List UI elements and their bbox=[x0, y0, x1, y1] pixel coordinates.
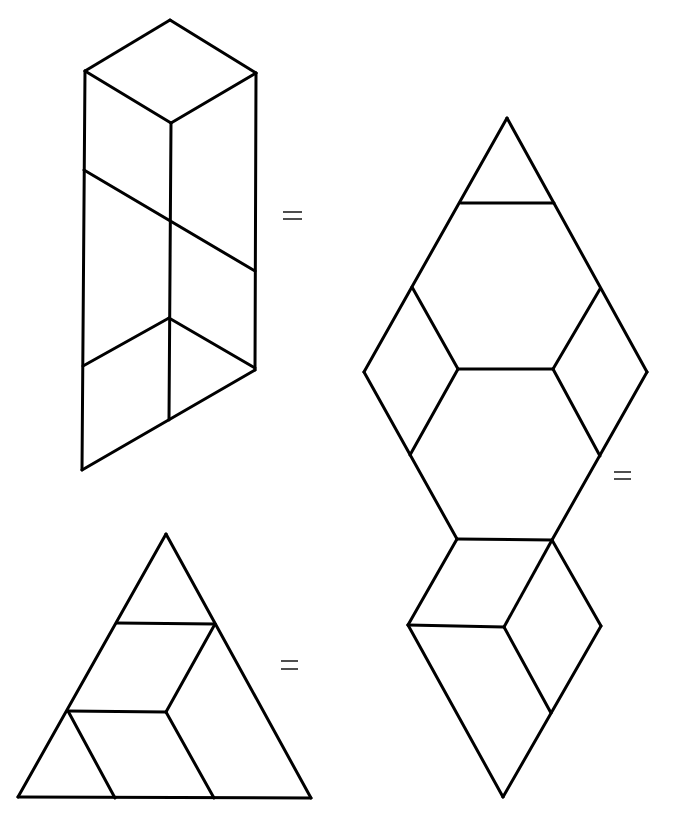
edge-line bbox=[408, 625, 504, 627]
edge-line bbox=[169, 123, 171, 420]
edge-line bbox=[170, 20, 256, 73]
edge-line bbox=[85, 71, 171, 123]
edge-line bbox=[552, 540, 601, 626]
edge-line bbox=[18, 797, 311, 798]
edge-line bbox=[364, 118, 507, 372]
edge-line bbox=[408, 539, 457, 625]
figure-triangle-decomposition bbox=[18, 534, 311, 798]
edge-line bbox=[68, 711, 115, 798]
edge-line bbox=[504, 627, 551, 713]
edge-line bbox=[410, 369, 458, 455]
edge-line bbox=[504, 540, 552, 627]
figure-prism-parallelogram bbox=[82, 20, 256, 470]
equals-sign bbox=[281, 661, 298, 669]
edge-line bbox=[166, 534, 311, 798]
figure-hexagon-rhombus-stack bbox=[364, 118, 647, 797]
edge-line bbox=[85, 20, 170, 71]
edge-line bbox=[83, 318, 169, 366]
edge-line bbox=[255, 73, 256, 370]
edge-line bbox=[553, 289, 600, 369]
edge-line bbox=[553, 369, 600, 456]
edge-line bbox=[171, 73, 256, 123]
edge-line bbox=[82, 71, 85, 470]
edge-line bbox=[68, 711, 166, 712]
equals-sign bbox=[614, 472, 631, 479]
edge-line bbox=[457, 539, 552, 540]
edge-line bbox=[412, 287, 458, 369]
edge-line bbox=[166, 624, 215, 712]
edge-line bbox=[166, 712, 214, 798]
edge-line bbox=[507, 118, 647, 372]
pattern-block-diagram bbox=[0, 0, 682, 833]
edge-line bbox=[408, 625, 503, 797]
edge-line bbox=[117, 623, 215, 624]
edge-line bbox=[169, 318, 255, 368]
equals-sign bbox=[283, 212, 302, 219]
